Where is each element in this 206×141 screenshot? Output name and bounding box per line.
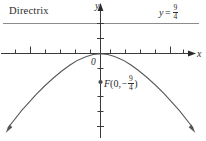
focus-label-x-value: 0, [113, 78, 121, 89]
focus-label-minus-sign: − [122, 78, 128, 89]
directrix-equation-label: y=94 [159, 4, 179, 20]
directrix-equation-fraction: 94 [173, 4, 179, 20]
focus-label-denominator: 4 [128, 84, 134, 92]
x-axis-arrowhead [188, 51, 196, 57]
parabola-figure: Directrix y=94 0 x y F(0, −94) [0, 0, 206, 141]
x-axis-label: x [197, 49, 201, 59]
focus-label-close-paren: ) [134, 78, 137, 89]
focus-point-label: F(0, −94) [104, 75, 138, 91]
directrix-equation-equals: = [165, 7, 171, 18]
origin-label: 0 [91, 58, 96, 68]
directrix-equation-variable: y [159, 7, 163, 18]
curve-left-arrowhead [6, 125, 13, 133]
directrix-equation-denominator: 4 [173, 13, 179, 21]
directrix-text-label: Directrix [9, 6, 49, 17]
x-axis-ticks [16, 47, 184, 54]
graph-canvas [0, 0, 206, 141]
y-axis-label: y [95, 1, 99, 11]
focus-label-fraction: 94 [128, 75, 134, 91]
focus-point [98, 80, 102, 84]
